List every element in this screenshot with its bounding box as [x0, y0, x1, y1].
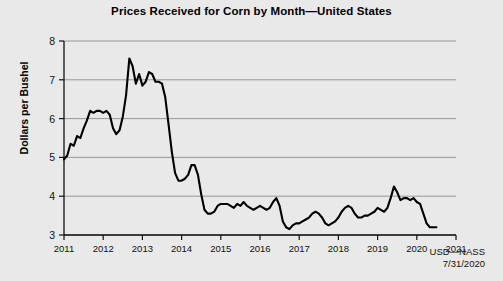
y-tick-label: 4 [49, 190, 55, 202]
x-tick-label: 2017 [289, 243, 310, 254]
x-tick-label: 2012 [93, 243, 114, 254]
y-tick-label: 7 [49, 74, 55, 86]
y-tick-label: 5 [49, 151, 55, 163]
y-tick-label: 6 [49, 113, 55, 125]
x-tick-label: 2015 [210, 243, 231, 254]
data-series-line [64, 58, 436, 229]
chart-footer: USD—NASS 7/31/2020 [430, 246, 485, 270]
y-axis-ticks: 345678 [49, 35, 64, 241]
chart-container: Prices Received for Corn by Month—United… [0, 0, 503, 281]
x-axis-ticks: 2011201220132014201520162017201820192020… [54, 235, 467, 254]
plot-area: 345678 201120122013201420152016201720182… [0, 0, 503, 281]
x-tick-label: 2019 [367, 243, 388, 254]
footer-date: 7/31/2020 [430, 258, 485, 270]
x-tick-label: 2018 [328, 243, 349, 254]
x-tick-label: 2020 [406, 243, 427, 254]
x-tick-label: 2014 [171, 243, 192, 254]
x-tick-label: 2016 [249, 243, 270, 254]
x-tick-label: 2011 [54, 243, 74, 254]
y-tick-label: 8 [49, 35, 55, 47]
x-tick-label: 2013 [132, 243, 153, 254]
footer-source: USD—NASS [430, 246, 485, 258]
y-tick-label: 3 [49, 229, 55, 241]
